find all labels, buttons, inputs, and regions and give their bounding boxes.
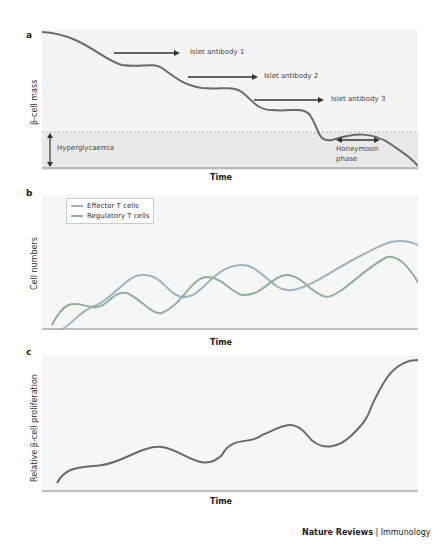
panel-c-chart — [42, 355, 418, 493]
hyperglycaemia-label: Hyperglycaemia — [57, 144, 114, 152]
honeymoon-label-2: phase — [336, 155, 357, 163]
honeymoon-label: Honeymoon — [336, 145, 378, 153]
panel-c-ylabel: Relative β-cell proliferation — [30, 374, 39, 482]
panel-b-ylabel: Cell numbers — [30, 237, 39, 290]
panel-c-letter: c — [26, 347, 31, 357]
islet-antibody-2-label: Islet antibody 2 — [264, 72, 318, 80]
islet-antibody-3-label: Islet antibody 3 — [331, 95, 385, 103]
panel-b-letter: b — [26, 188, 32, 198]
credit: Nature Reviews | Immunology — [302, 528, 431, 537]
panel-a-xlabel: Time — [210, 173, 232, 182]
legend-effector: Effector T cells — [71, 201, 149, 211]
panel-b-legend: Effector T cells Regulatory T cells — [66, 198, 154, 224]
panel-c-xlabel: Time — [210, 497, 232, 506]
panel-b-xlabel: Time — [210, 338, 232, 347]
islet-antibody-1-label: Islet antibody 1 — [190, 48, 244, 56]
panel-a-letter: a — [26, 30, 32, 40]
panel-a-ylabel: β-cell mass — [30, 80, 39, 125]
legend-regulatory: Regulatory T cells — [71, 211, 149, 221]
